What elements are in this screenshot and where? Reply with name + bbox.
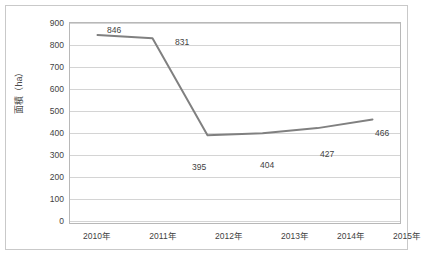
line-series-svg <box>70 23 400 223</box>
y-tick-label: 300 <box>34 150 64 160</box>
x-tick-label-2011: 2011年 <box>135 230 191 242</box>
data-label-2010: 846 <box>107 25 121 35</box>
data-label-2013: 404 <box>260 160 274 170</box>
x-tick-label-2014: 2014年 <box>323 230 379 242</box>
y-tick-label: 100 <box>34 194 64 204</box>
y-tick-label: 200 <box>34 172 64 182</box>
y-tick-label: 500 <box>34 106 64 116</box>
y-tick-label: 800 <box>34 40 64 50</box>
series-line-area <box>98 35 373 135</box>
data-label-2014: 427 <box>320 149 334 159</box>
y-tick-label: 900 <box>34 18 64 28</box>
x-tick-label-2015: 2015年 <box>379 230 425 242</box>
x-tick-label-2012: 2012年 <box>201 230 257 242</box>
y-tick-label: 0 <box>34 216 64 226</box>
x-tick-label-2010: 2010年 <box>69 230 125 242</box>
x-tick-label-2013: 2013年 <box>267 230 323 242</box>
y-axis-title: 面積（ha） <box>12 61 25 121</box>
y-tick-label: 600 <box>34 84 64 94</box>
y-tick-label: 400 <box>34 128 64 138</box>
y-tick-label: 700 <box>34 62 64 72</box>
data-label-2011: 831 <box>175 37 189 47</box>
chart-figure-frame: 面積（ha） 900 800 700 600 500 400 300 200 1… <box>5 5 408 250</box>
x-axis-tick-labels: 2010年 2011年 2012年 2013年 2014年 2015年 <box>69 230 401 244</box>
data-label-2012: 395 <box>192 162 206 172</box>
y-axis-tick-labels: 900 800 700 600 500 400 300 200 100 0 <box>34 22 64 224</box>
data-label-2015: 466 <box>375 128 389 138</box>
plot-area: 846 831 395 404 427 466 <box>69 22 401 224</box>
figure-caption <box>0 253 415 263</box>
